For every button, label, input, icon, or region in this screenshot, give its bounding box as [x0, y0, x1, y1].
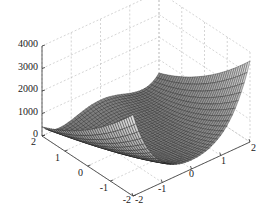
z-tick-label: 2000: [18, 83, 38, 94]
y-tick-label: 1: [55, 152, 60, 163]
z-tick-label: 3000: [18, 61, 38, 72]
x-tick-label: 2: [251, 142, 256, 153]
x-tick-label: 0: [189, 168, 194, 179]
y-tick-label: 2: [31, 136, 36, 147]
x-tick-label: 1: [221, 155, 226, 166]
surface-plot: 0 1000 2000 3000 4000 2 1 0 -1 -2 -2 -1 …: [0, 0, 271, 206]
z-tick-label: 4000: [18, 38, 38, 49]
z-tick-label: 1000: [18, 106, 38, 117]
y-tick-label: -1: [100, 182, 108, 193]
y-tick-label: -2: [123, 194, 131, 205]
surface-mesh: [42, 61, 250, 165]
x-tick-label: -2: [135, 194, 143, 205]
y-tick-label: 0: [78, 167, 83, 178]
x-tick-label: -1: [158, 183, 166, 194]
z-axis-ticks: 0 1000 2000 3000 4000: [18, 38, 38, 139]
